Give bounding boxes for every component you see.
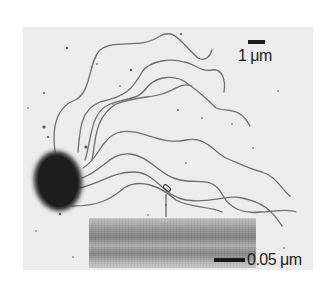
- scale-bar-main: [248, 40, 265, 44]
- scale-label-main: 1 μm: [238, 48, 272, 64]
- scale-label-inset: 0.05 μm: [247, 252, 302, 268]
- cell-body: [30, 148, 86, 214]
- scale-bar-inset: [214, 258, 245, 262]
